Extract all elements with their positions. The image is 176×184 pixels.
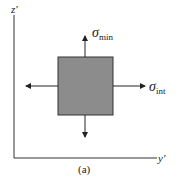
sigma-int-subscript: int [156, 86, 166, 96]
sigma-int-symbol: σ [149, 79, 156, 94]
figure-caption: (a) [78, 163, 90, 175]
z-axis-label: z' [11, 3, 18, 15]
sigma-int-label: σint [149, 79, 165, 96]
sigma-min-symbol: σ [92, 25, 99, 40]
sigma-min-label: σmin [92, 25, 113, 42]
sigma-min-subscript: min [99, 32, 113, 42]
stress-element [58, 57, 113, 115]
y-axis-label: y' [158, 152, 165, 164]
